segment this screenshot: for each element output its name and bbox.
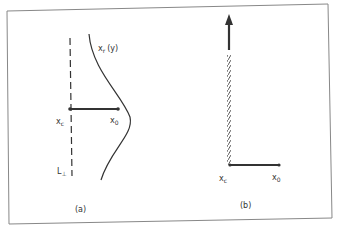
- point-x0-b: [277, 163, 280, 166]
- point-xc: [68, 107, 72, 111]
- caption-b: (b): [240, 201, 251, 210]
- figure: xr(y) xc x0 L⊥ (a) xc x0 (b): [0, 0, 338, 225]
- hatched-wall: [227, 55, 231, 165]
- caption-a: (a): [75, 205, 86, 214]
- curve-label: xr(y): [98, 44, 118, 54]
- point-xc-b: [228, 163, 231, 166]
- point-x0: [116, 107, 120, 111]
- figure-frame: [7, 4, 332, 224]
